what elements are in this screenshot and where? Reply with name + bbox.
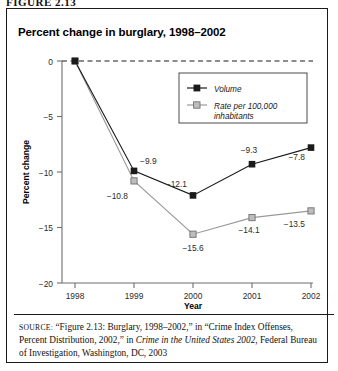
x-axis-ticks: [75, 283, 311, 288]
legend-label-rate: Rate per 100,000: [214, 102, 278, 111]
y-tick-label-4: −20: [39, 279, 54, 289]
legend-label-volume: Volume: [214, 85, 242, 94]
chart-plot-area: 0 −5 −10 −15 −20 Percent change 1998 199…: [15, 47, 321, 309]
data-label-rate-1999: −10.8: [107, 191, 129, 201]
y-tick-label-2: −10: [39, 168, 54, 178]
data-label-volume-2001: −9.3: [241, 145, 258, 155]
data-label-rate-2001: −14.1: [238, 225, 260, 235]
y-tick-label-0: 0: [48, 57, 53, 67]
y-tick-label-1: −5: [43, 112, 53, 122]
x-axis-title: Year: [184, 301, 203, 309]
y-axis-title: Percent change: [21, 140, 31, 204]
x-tick-label-2001: 2001: [243, 291, 262, 301]
data-label-volume-2000: −12.1: [166, 179, 188, 189]
y-axis-ticks: [57, 61, 62, 283]
data-label-rate-2002: −13.5: [284, 219, 306, 229]
source-note-italic-title: Crime in the United States 2002: [136, 335, 256, 345]
legend-marker-volume: [194, 85, 201, 92]
chart-title: Percent change in burglary, 1998–2002: [18, 26, 226, 38]
source-note-prefix: SOURCE:: [19, 323, 53, 332]
y-tick-label-3: −15: [39, 223, 54, 233]
chart-legend: Volume Rate per 100,000 inhabitants: [179, 73, 307, 123]
x-tick-label-1999: 1999: [125, 291, 144, 301]
figure-box: Percent change in burglary, 1998–2002 0 …: [6, 8, 328, 363]
data-label-rate-2000: −15.6: [182, 243, 204, 253]
x-tick-label-2002: 2002: [302, 291, 321, 301]
data-label-volume-1999: −9.9: [140, 156, 157, 166]
source-note: SOURCE: “Figure 2.13: Burglary, 1998–200…: [19, 321, 323, 359]
figure-number-label: FIGURE 2.13: [6, 0, 76, 8]
legend-marker-rate: [194, 102, 200, 108]
figure-divider: [14, 314, 334, 315]
x-tick-label-1998: 1998: [66, 291, 85, 301]
x-tick-label-2000: 2000: [184, 291, 203, 301]
data-label-volume-2002: −7.8: [288, 152, 305, 162]
line-chart-svg: 0 −5 −10 −15 −20 Percent change 1998 199…: [15, 47, 321, 309]
legend-label-rate-line2: inhabitants: [214, 112, 254, 121]
